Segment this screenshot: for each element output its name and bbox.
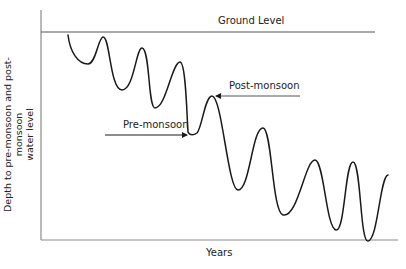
- ground-level-label: Ground Level: [218, 16, 284, 26]
- y-axis-label-line2: water level: [24, 55, 35, 215]
- x-axis-label: Years: [206, 248, 232, 258]
- water-level-diagram: [0, 0, 406, 269]
- post-monsoon-label: Post-monsoon: [229, 81, 300, 91]
- pre-monsoon-label: Pre-monsoon: [123, 120, 189, 130]
- y-axis-label: Depth to pre-monsoon and post-monsoon wa…: [2, 55, 35, 215]
- y-axis-label-line1: Depth to pre-monsoon and post-monsoon: [2, 55, 24, 215]
- water-level-curve: [68, 35, 388, 241]
